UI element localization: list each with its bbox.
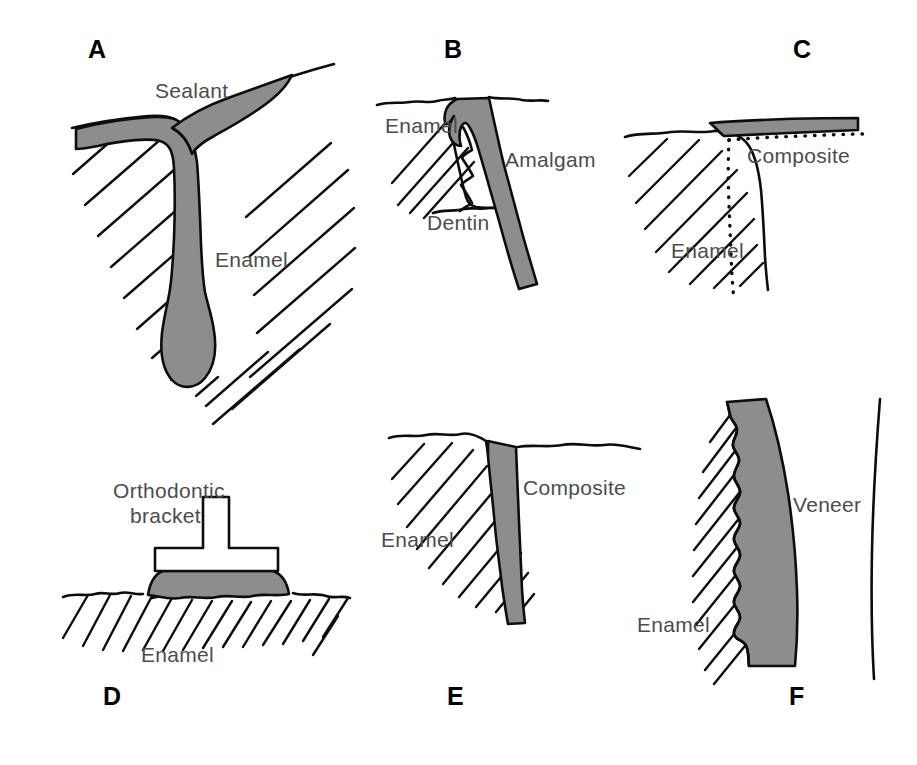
panel-letter-e: E	[447, 682, 464, 710]
panel-f-adjacent-contour-line	[872, 399, 880, 679]
panel-d-label-bracket: bracket	[130, 504, 201, 527]
panel-b-label-dentin: Dentin	[427, 211, 490, 234]
panel-a-enamel-hatch-right	[206, 143, 355, 424]
panel-a-label-sealant: Sealant	[155, 79, 228, 102]
panel-a-label-enamel: Enamel	[215, 248, 288, 271]
panel-d-enamel-surface-right	[293, 593, 350, 598]
panel-b-label-amalgam: Amalgam	[505, 148, 596, 171]
panel-f-label-veneer: Veneer	[793, 493, 861, 516]
panel-a-artwork: Sealant Enamel	[72, 64, 355, 424]
panel-c-composite-shape	[710, 118, 858, 136]
panel-b-occlusal-surface-left	[377, 98, 455, 105]
panel-f-artwork: Veneer Enamel	[637, 399, 880, 684]
panel-b-occlusal-surface-right	[489, 97, 548, 101]
panel-c-enamel-hatch	[629, 139, 763, 288]
panel-b-artwork: Enamel Amalgam Dentin	[377, 97, 596, 289]
panel-letter-b: B	[444, 35, 462, 63]
figure-canvas: Sealant Enamel Enamel Amal	[0, 0, 917, 765]
panel-letter-c: C	[793, 35, 811, 63]
panel-letter-a: A	[88, 35, 106, 63]
panel-e-composite-shape	[488, 441, 525, 624]
panel-e-artwork: Composite Enamel	[381, 433, 640, 624]
panel-e-label-composite: Composite	[523, 476, 626, 499]
panel-e-enamel-surface	[389, 433, 486, 441]
panel-letter-d: D	[103, 682, 121, 710]
panel-f-label-enamel: Enamel	[637, 613, 710, 636]
panel-d-label-enamel: Enamel	[141, 643, 214, 666]
panel-c-label-enamel: Enamel	[671, 239, 744, 262]
panel-b-label-enamel: Enamel	[385, 114, 458, 137]
panel-letter-f: F	[789, 682, 804, 710]
panel-d-artwork: Orthodontic bracket Enamel	[63, 479, 350, 666]
panel-d-adhesive-pad	[148, 571, 289, 599]
panel-d-label-orthodontic: Orthodontic	[113, 479, 225, 502]
dental-bonding-figure: Sealant Enamel Enamel Amal	[0, 0, 917, 765]
panel-c-label-composite: Composite	[747, 144, 850, 167]
panel-c-enamel-surface	[625, 131, 714, 137]
panel-e-label-enamel: Enamel	[381, 528, 454, 551]
panel-a-sealant-shape	[76, 117, 215, 387]
panel-c-artwork: Composite Enamel	[625, 118, 866, 297]
panel-e-adjacent-surface	[518, 444, 640, 449]
panel-b-amalgam-shape	[445, 98, 538, 289]
